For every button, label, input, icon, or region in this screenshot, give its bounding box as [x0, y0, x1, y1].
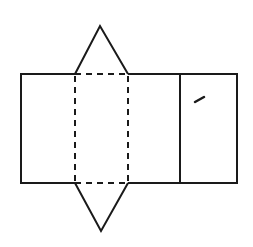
bottom-triangle-face: [75, 183, 128, 231]
ink-mark: [195, 97, 204, 102]
outer-boundary-right: [128, 74, 237, 183]
top-triangle-face: [75, 26, 128, 74]
outer-boundary-left: [21, 74, 75, 183]
prism-net-diagram: [0, 0, 253, 247]
